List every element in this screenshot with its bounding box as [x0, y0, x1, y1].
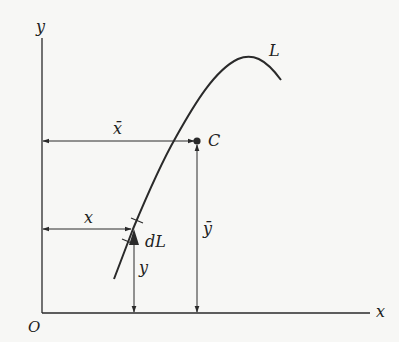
y-bar-label: ȳ [202, 219, 213, 238]
y-axis-label: y [35, 17, 46, 36]
centroid-of-curve-diagram: y x O L C x̄ ȳ x y dL [0, 0, 399, 342]
curve-label: L [268, 41, 280, 60]
centroid-point [193, 137, 200, 144]
x-axis-label: x [376, 302, 385, 321]
origin-label: O [28, 318, 40, 336]
centroid-label: C [208, 131, 220, 150]
dL-label: dL [145, 232, 166, 251]
x-bar-label: x̄ [113, 119, 122, 138]
y-label: y [138, 258, 149, 277]
x-label: x [84, 208, 93, 227]
